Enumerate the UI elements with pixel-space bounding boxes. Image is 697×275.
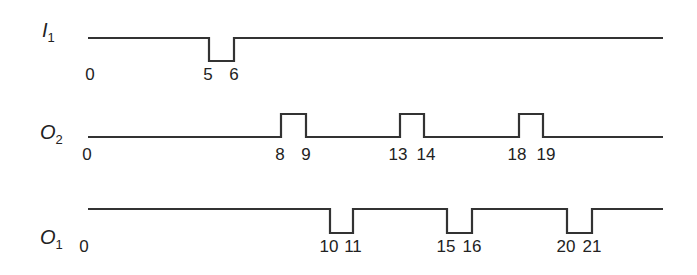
time-tick-label: 8	[275, 145, 284, 164]
time-tick-label: 20	[557, 237, 576, 256]
time-tick-label: 9	[301, 145, 310, 164]
time-tick-label: 0	[79, 237, 88, 256]
signal-o2: O2 08913141819	[40, 114, 663, 164]
time-tick-label: 16	[463, 237, 482, 256]
time-tick-label: 5	[203, 65, 212, 84]
timing-diagram: I1 056 O2 08913141819 O1 0101115162021	[0, 0, 697, 275]
signal-label-i1: I1	[42, 19, 55, 45]
signal-i1: I1 056	[42, 19, 663, 84]
time-tick-label: 6	[229, 65, 238, 84]
time-tick-label: 11	[344, 237, 362, 256]
time-tick-label: 0	[82, 145, 91, 164]
signal-label-o1: O1	[40, 226, 63, 252]
time-tick-label: 13	[389, 145, 408, 164]
time-tick-label: 18	[508, 145, 527, 164]
waveform-o1	[88, 209, 663, 233]
time-tick-label: 19	[537, 145, 556, 164]
waveform-o2	[88, 114, 663, 137]
time-ticks-o1: 0101115162021	[79, 237, 601, 256]
waveform-i1	[88, 38, 663, 61]
time-tick-label: 14	[417, 145, 436, 164]
time-tick-label: 10	[320, 237, 339, 256]
time-tick-label: 15	[437, 237, 456, 256]
time-ticks-o2: 08913141819	[82, 145, 555, 164]
time-tick-label: 0	[85, 65, 94, 84]
time-tick-label: 21	[583, 237, 602, 256]
time-ticks-i1: 056	[85, 65, 238, 84]
signal-o1: O1 0101115162021	[40, 209, 663, 256]
signal-label-o2: O2	[40, 121, 63, 147]
